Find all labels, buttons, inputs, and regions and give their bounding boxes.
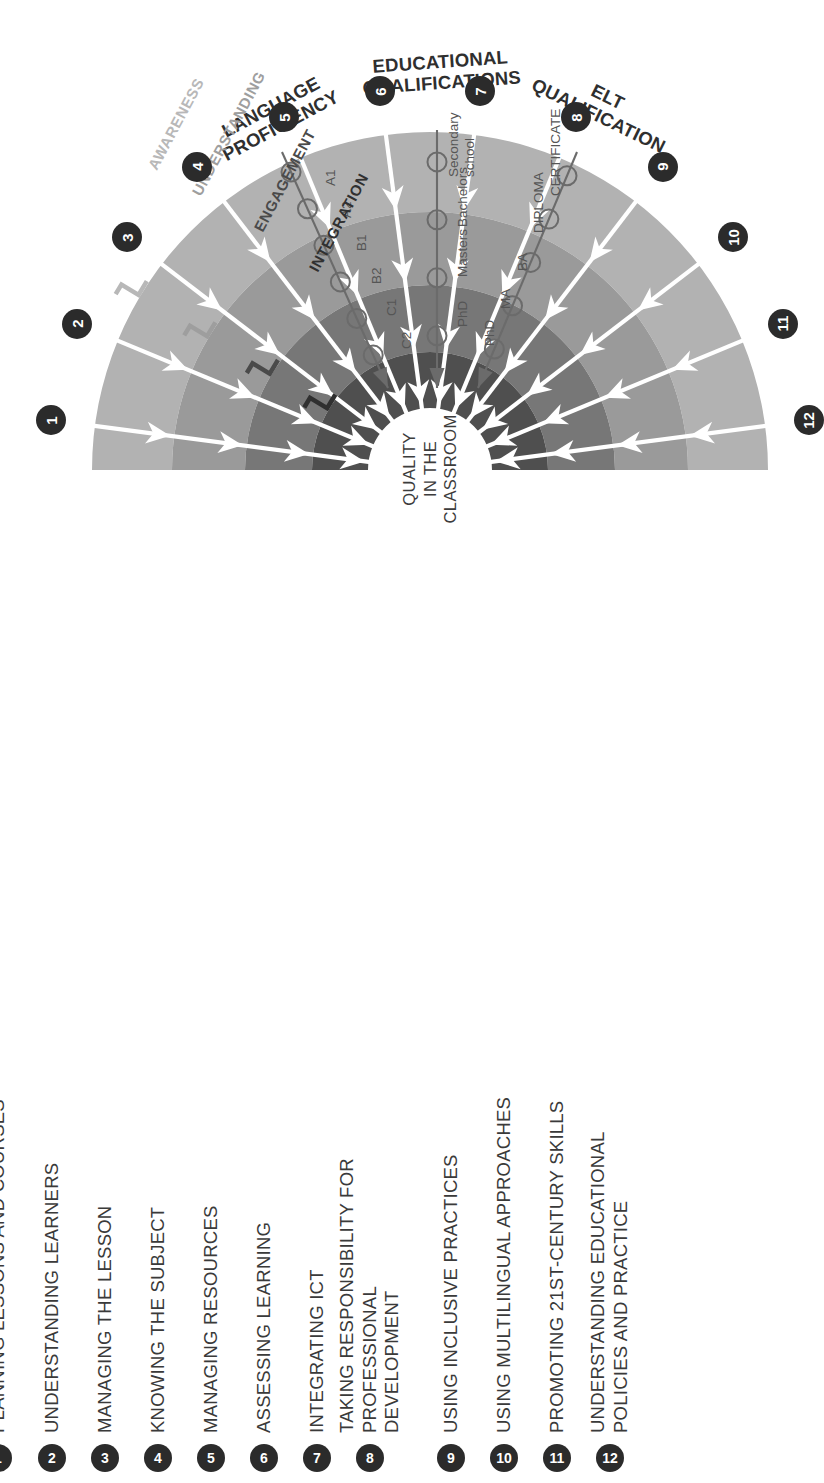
- legend-label-8: TAKING RESPONSIBILITY FOR PROFESSIONAL D…: [336, 1052, 404, 1433]
- legend-item-4[interactable]: 4KNOWING THE SUBJECT: [130, 1052, 186, 1472]
- fan-badge-number: 12: [801, 412, 816, 429]
- scale-tick-elt-qualification-4: MA: [498, 288, 513, 308]
- fan-badge-number: 1: [44, 416, 59, 424]
- bracket-awareness: [116, 281, 147, 295]
- legend-badge-8: 8: [356, 1444, 384, 1472]
- scale-tick-educational-qualifications-3: Masters: [455, 229, 470, 277]
- scale-tick-educational-qualifications-4: PhD: [455, 301, 470, 327]
- scale-tick-language-proficiency-3: B1: [353, 235, 368, 252]
- legend-item-11[interactable]: 11PROMOTING 21ST-CENTURY SKILLS: [529, 1052, 585, 1472]
- legend-badge-number: 2: [48, 1451, 56, 1465]
- fan-badge-11[interactable]: 11: [768, 309, 798, 339]
- scale-tick-language-proficiency-5: C1: [384, 299, 399, 316]
- legend-badge-12: 12: [596, 1444, 624, 1472]
- legend-label-9: USING INCLUSIVE PRACTICES: [440, 1154, 463, 1433]
- legend-item-10[interactable]: 10USING MULTILINGUAL APPROACHES: [476, 1052, 532, 1472]
- legend-badge-11: 11: [543, 1444, 571, 1472]
- legend-label-1: PLANNING LESSONS AND COURSES: [0, 1099, 9, 1433]
- legend-label-11: PROMOTING 21ST-CENTURY SKILLS: [546, 1101, 569, 1433]
- legend-badge-number: 11: [550, 1451, 565, 1465]
- fan-badge-number: 9: [655, 163, 670, 171]
- fan-badge-number: 6: [373, 87, 388, 95]
- legend-item-12[interactable]: 12UNDERSTANDING EDUCATIONAL POLICIES AND…: [582, 1052, 638, 1472]
- fan-badge-number: 7: [472, 87, 487, 95]
- scale-tick-language-proficiency-6: C2: [399, 331, 414, 348]
- fan-badge-number: 5: [276, 113, 291, 121]
- fan-badge-number: 10: [726, 229, 741, 246]
- legend-badge-2: 2: [38, 1444, 66, 1472]
- legend-badge-4: 4: [144, 1444, 172, 1472]
- competency-legend: 1PLANNING LESSONS AND COURSES2UNDERSTAND…: [0, 880, 819, 1480]
- legend-badge-9: 9: [437, 1444, 465, 1472]
- legend-badge-number: 9: [447, 1451, 455, 1465]
- legend-item-5[interactable]: 5MANAGING RESOURCES: [183, 1052, 239, 1472]
- scale-tick-elt-qualification-1: CERTIFICATE: [547, 108, 562, 195]
- legend-item-1[interactable]: 1PLANNING LESSONS AND COURSES: [0, 1052, 26, 1472]
- fan-badge-7[interactable]: 7: [465, 76, 495, 106]
- legend-badge-1: 1: [0, 1444, 12, 1472]
- legend-label-10: USING MULTILINGUAL APPROACHES: [493, 1097, 516, 1433]
- fan-badge-12[interactable]: 12: [794, 405, 824, 435]
- legend-label-4: KNOWING THE SUBJECT: [147, 1207, 170, 1433]
- legend-item-2[interactable]: 2UNDERSTANDING LEARNERS: [24, 1052, 80, 1472]
- scale-tick-educational-qualifications-2: Bachelors: [455, 167, 470, 227]
- center-label: QUALITY IN THE CLASSROOM: [399, 394, 461, 544]
- legend-item-3[interactable]: 3MANAGING THE LESSON: [77, 1052, 133, 1472]
- legend-label-2: UNDERSTANDING LEARNERS: [41, 1163, 64, 1433]
- legend-item-9[interactable]: 9USING INCLUSIVE PRACTICES: [423, 1052, 479, 1472]
- legend-badge-number: 3: [101, 1451, 109, 1465]
- legend-label-7: INTEGRATING ICT: [306, 1269, 329, 1433]
- legend-badge-number: 4: [154, 1451, 162, 1465]
- legend-badge-number: 7: [313, 1451, 321, 1465]
- legend-badge-6: 6: [250, 1444, 278, 1472]
- fan-badge-number: 8: [569, 113, 584, 121]
- legend-badge-number: 6: [260, 1451, 268, 1465]
- fan-badge-5[interactable]: 5: [269, 102, 299, 132]
- legend-item-6[interactable]: 6ASSESSING LEARNING: [236, 1052, 292, 1472]
- legend-label-12: UNDERSTANDING EDUCATIONAL POLICIES AND P…: [587, 1052, 632, 1433]
- legend-badge-number: 12: [602, 1451, 618, 1465]
- legend-badge-number: 8: [366, 1451, 374, 1465]
- scale-tick-elt-qualification-2: DIPLOMA: [531, 173, 546, 234]
- legend-badge-10: 10: [490, 1444, 518, 1472]
- legend-label-6: ASSESSING LEARNING: [253, 1222, 276, 1433]
- fan-badge-9[interactable]: 9: [648, 152, 678, 182]
- scale-tick-elt-qualification-3: BA: [514, 253, 529, 271]
- legend-badge-5: 5: [197, 1444, 225, 1472]
- legend-badge-3: 3: [91, 1444, 119, 1472]
- fan-badge-2[interactable]: 2: [62, 309, 92, 339]
- scale-tick-language-proficiency-1: A1: [323, 169, 338, 186]
- scale-tick-elt-qualification-5: PhD: [481, 320, 496, 346]
- legend-item-8[interactable]: 8TAKING RESPONSIBILITY FOR PROFESSIONAL …: [342, 1052, 398, 1472]
- legend-badge-number: 5: [207, 1451, 215, 1465]
- fan-badge-number: 11: [775, 316, 790, 332]
- legend-label-3: MANAGING THE LESSON: [94, 1206, 117, 1433]
- fan-badge-number: 2: [70, 320, 85, 328]
- legend-badge-number: 1: [0, 1451, 2, 1465]
- legend-badge-number: 10: [496, 1451, 512, 1465]
- legend-badge-7: 7: [303, 1444, 331, 1472]
- fan-badge-number: 3: [119, 233, 134, 241]
- scale-tick-language-proficiency-4: B2: [368, 267, 383, 284]
- fan-badge-number: 4: [190, 163, 205, 171]
- legend-label-5: MANAGING RESOURCES: [200, 1205, 223, 1433]
